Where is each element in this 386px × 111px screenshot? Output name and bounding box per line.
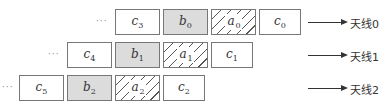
arrow-icon-row-0: [308, 22, 342, 23]
cell-b2: b2: [67, 75, 112, 101]
cell-c3: c3: [115, 9, 160, 35]
cell-b0: b0: [163, 9, 208, 35]
ellipsis-row-1: ···: [48, 49, 60, 59]
cell-a1: a1: [163, 42, 208, 68]
cell-c5: c5: [19, 75, 64, 101]
antenna-label-2: 天线2: [350, 81, 379, 97]
arrow-icon-row-2: [308, 88, 342, 89]
antenna-label-0: 天线0: [350, 15, 379, 31]
cell-c4: c4: [67, 42, 112, 68]
cell-a0: a0: [211, 9, 256, 35]
cell-c2: c2: [163, 75, 205, 101]
cell-c0: c0: [259, 9, 301, 35]
ellipsis-row-2: ···: [2, 82, 14, 92]
cell-b1: b1: [115, 42, 160, 68]
cell-a2: a2: [115, 75, 160, 101]
arrow-icon-row-1: [308, 55, 342, 56]
ellipsis-row-0: ···: [96, 16, 108, 26]
cell-c1: c1: [211, 42, 253, 68]
antenna-label-1: 天线1: [350, 48, 379, 64]
